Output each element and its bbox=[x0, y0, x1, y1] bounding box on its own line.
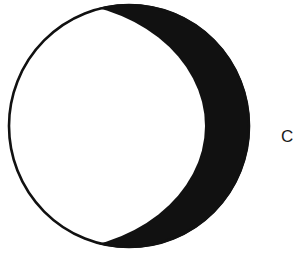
crescent-moon-figure bbox=[0, 0, 306, 258]
figure-canvas: C bbox=[0, 0, 306, 258]
figure-label-c: C bbox=[281, 126, 303, 148]
